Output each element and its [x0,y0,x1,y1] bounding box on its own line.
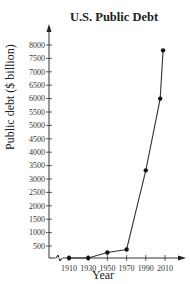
x-tick-label: 1950 [99,264,115,273]
y-tick-label: 8000 [29,41,45,50]
data-point [86,256,90,260]
data-point [67,256,71,260]
x-tick-label: 1970 [119,264,135,273]
y-tick-label: 3000 [29,175,45,184]
line-chart: 5001000150020002500300035004000450050005… [0,0,190,284]
y-tick-label: 500 [33,242,45,251]
y-tick-label: 5000 [29,121,45,130]
x-tick-label: 2010 [157,264,173,273]
y-tick-label: 7500 [29,54,45,63]
y-tick-label: 3500 [29,161,45,170]
data-point [124,247,128,251]
axes [47,24,187,261]
y-tick-label: 4500 [29,135,45,144]
x-tick-label: 1990 [138,264,154,273]
data-point [158,96,162,100]
y-axis-arrow-icon [47,24,52,32]
y-tick-label: 2000 [29,202,45,211]
y-tick-label: 7000 [29,68,45,77]
y-tick-label: 1500 [29,215,45,224]
y-tick-label: 1000 [29,228,45,237]
data-point [161,48,165,52]
data-point [144,168,148,172]
y-tick-label: 2500 [29,188,45,197]
series-line [69,50,163,258]
data-series [67,48,165,260]
y-tick-label: 6500 [29,81,45,90]
x-tick-label: 1910 [61,264,77,273]
y-tick-label: 4000 [29,148,45,157]
x-tick-label: 1930 [80,264,96,273]
y-tick-label: 6000 [29,94,45,103]
x-axis-arrow-icon [178,256,186,261]
data-point [105,250,109,254]
y-tick-label: 5500 [29,108,45,117]
